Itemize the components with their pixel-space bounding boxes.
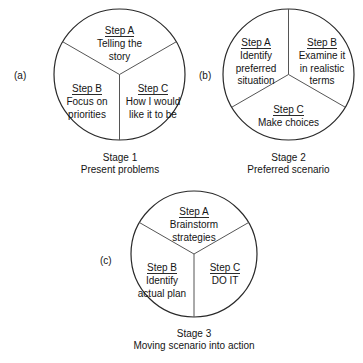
segment-a-step-a-title: Step A [105, 25, 134, 37]
segment-a-step-b-line1: Focus on [56, 96, 118, 108]
figure-panel-b: (b) Step A Identify preferred situation … [186, 0, 363, 180]
segment-a-step-c: Step C How I would like it to be [121, 83, 185, 120]
circle-stage-2: Step A Identify preferred situation Step… [222, 8, 355, 141]
segment-c-step-c-title: Step C [210, 262, 241, 274]
caption-stage-2: Stage 2 Preferred scenario [217, 152, 360, 176]
segment-b-step-c-title: Step C [273, 104, 304, 116]
segment-a-step-a-line2: story [63, 51, 176, 63]
caption-stage-1-line2: Present problems [49, 164, 191, 176]
caption-stage-1-line1: Stage 1 [49, 152, 191, 164]
segment-c-step-c-line1: DO IT [196, 275, 254, 287]
segment-b-step-c: Step C Make choices [232, 104, 345, 129]
segment-c-step-a-line2: strategies [139, 232, 249, 244]
caption-stage-2-line2: Preferred scenario [217, 164, 360, 176]
segment-b-step-b-line1: Examine it [291, 50, 353, 62]
segment-a-step-b-title: Step B [72, 83, 102, 95]
caption-stage-1: Stage 1 Present problems [49, 152, 191, 176]
panel-label-b: (b) [199, 70, 211, 82]
circle-stage-1: Step A Telling the story Step B Focus on… [53, 8, 186, 141]
segment-c-step-b-title: Step B [147, 262, 177, 274]
segment-a-step-b: Step B Focus on priorities [56, 83, 118, 120]
segment-a-step-a-line1: Telling the [63, 38, 176, 50]
segment-c-step-c: Step C DO IT [196, 262, 254, 287]
segment-b-step-b: Step B Examine it in realistic terms [291, 37, 353, 87]
panel-label-c: (c) [100, 255, 112, 267]
figure-panel-a: (a) Step A Telling the story Step B Focu… [0, 0, 200, 180]
segment-a-step-c-title: Step C [138, 83, 169, 95]
segment-c-step-b-line1: Identify [132, 275, 192, 287]
segment-a-step-c-line1: How I would [121, 96, 185, 108]
caption-stage-2-line1: Stage 2 [217, 152, 360, 164]
caption-stage-3: Stage 3 Moving scenario into action [113, 328, 275, 352]
circle-stage-3: Step A Brainstorm strategies Step B Iden… [130, 190, 258, 318]
segment-b-step-a: Step A Identify preferred situation [226, 37, 286, 87]
segment-b-step-a-title: Step A [241, 37, 270, 49]
segment-b-step-b-title: Step B [307, 37, 337, 49]
segment-a-step-a: Step A Telling the story [63, 25, 176, 62]
segment-b-step-a-line2: preferred [226, 63, 286, 75]
segment-b-step-c-line1: Make choices [232, 117, 345, 129]
segment-b-step-b-line3: terms [291, 75, 353, 87]
segment-c-step-a-line1: Brainstorm [139, 219, 249, 231]
segment-a-step-b-line2: priorities [56, 109, 118, 121]
segment-b-step-a-line1: Identify [226, 50, 286, 62]
segment-c-step-b-line2: actual plan [132, 288, 192, 300]
figure-panel-c: (c) Step A Brainstorm strategies Step B … [85, 186, 300, 363]
segment-c-step-a: Step A Brainstorm strategies [139, 206, 249, 243]
panel-label-a: (a) [14, 70, 26, 82]
segment-c-step-b: Step B Identify actual plan [132, 262, 192, 299]
segment-a-step-c-line2: like it to be [121, 109, 185, 121]
segment-b-step-a-line3: situation [226, 75, 286, 87]
diagram-canvas: (a) Step A Telling the story Step B Focu… [0, 0, 363, 363]
caption-stage-3-line1: Stage 3 [113, 328, 275, 340]
segment-b-step-b-line2: in realistic [291, 63, 353, 75]
segment-c-step-a-title: Step A [179, 206, 208, 218]
caption-stage-3-line2: Moving scenario into action [113, 340, 275, 352]
